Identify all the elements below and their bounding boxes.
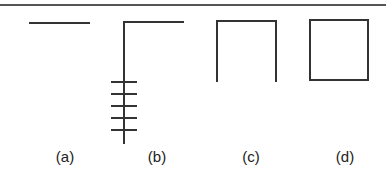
panel-label-c: (c) <box>231 148 271 166</box>
panel-d-shape <box>310 20 368 80</box>
panel-label-d: (d) <box>325 148 365 166</box>
panel-c-shape <box>217 21 276 81</box>
panel-label-a: (a) <box>45 148 85 166</box>
panel-b-shape <box>112 22 183 143</box>
panel-label-b: (b) <box>137 148 177 166</box>
